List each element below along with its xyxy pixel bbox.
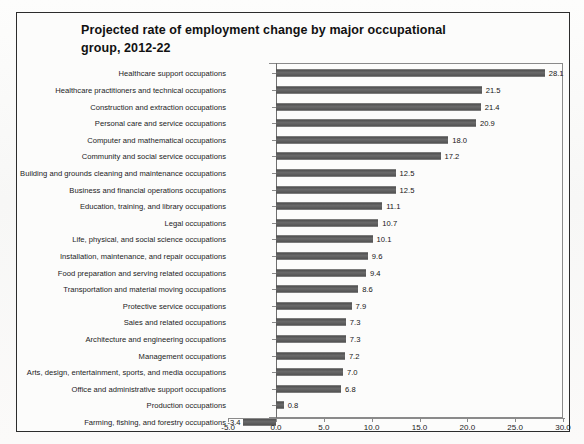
x-axis-tick-label: 20.0 xyxy=(460,423,476,432)
bar-value-label: 18.0 xyxy=(452,135,467,144)
bar-value-label: 7.0 xyxy=(347,368,358,377)
category-label: Protective service occupations xyxy=(123,301,226,310)
bar-row: Healthcare practitioners and technical o… xyxy=(17,82,571,99)
x-axis-tick xyxy=(515,418,516,422)
bar-row: Healthcare support occupations28.1 xyxy=(17,65,571,82)
bar-value-label: 12.5 xyxy=(400,185,415,194)
bar xyxy=(276,336,346,343)
bar-row: Protective service occupations7.9 xyxy=(17,298,571,315)
bar-row: Construction and extraction occupations2… xyxy=(17,98,571,115)
bar-row: Sales and related occupations7.3 xyxy=(17,314,571,331)
bar-value-label: 7.9 xyxy=(356,301,367,310)
x-axis-tick xyxy=(276,418,277,422)
chart-title: Projected rate of employment change by m… xyxy=(81,21,501,57)
bar-value-label: 12.5 xyxy=(400,168,415,177)
chart-title-line-2: group, 2012-22 xyxy=(81,41,171,55)
bar-row: Life, physical, and social science occup… xyxy=(17,231,571,248)
bar xyxy=(276,385,341,392)
category-label: Healthcare support occupations xyxy=(119,69,226,78)
bar-row: Food preparation and serving related occ… xyxy=(17,264,571,281)
bar-value-label: 6.8 xyxy=(345,384,356,393)
bar xyxy=(276,269,366,276)
x-axis-tick-label: 5.0 xyxy=(318,423,329,432)
bar xyxy=(276,136,448,143)
bar-value-label: 7.3 xyxy=(350,335,361,344)
category-label: Management occupations xyxy=(139,351,226,360)
bar-row: Personal care and service occupations20.… xyxy=(17,115,571,132)
category-label: Life, physical, and social science occup… xyxy=(72,235,226,244)
x-axis-tick xyxy=(372,418,373,422)
bar xyxy=(276,169,396,176)
category-label: Business and financial operations occupa… xyxy=(69,185,226,194)
bar xyxy=(276,120,476,127)
bar-value-label: 9.4 xyxy=(370,268,381,277)
bar xyxy=(276,236,373,243)
x-axis-tick-label: 15.0 xyxy=(412,423,428,432)
category-label: Architecture and engineering occupations xyxy=(85,335,226,344)
category-label: Production occupations xyxy=(147,401,226,410)
category-label: Transportation and material moving occup… xyxy=(63,285,226,294)
category-label: Farming, fishing, and forestry occupatio… xyxy=(84,418,226,427)
bar-row: Office and administrative support occupa… xyxy=(17,381,571,398)
bar-row: Management occupations7.2 xyxy=(17,347,571,364)
bar xyxy=(276,70,545,77)
bar-value-label: 17.2 xyxy=(445,152,460,161)
bar-row: Business and financial operations occupa… xyxy=(17,181,571,198)
category-label: Installation, maintenance, and repair oc… xyxy=(60,252,226,261)
x-axis-tick-label: -5.0 xyxy=(221,423,235,432)
bar-value-label: 10.1 xyxy=(377,235,392,244)
bar-value-label: 20.9 xyxy=(480,119,495,128)
x-axis-tick-label: 25.0 xyxy=(507,423,523,432)
bar-rows-container: Healthcare support occupations28.1Health… xyxy=(17,65,571,414)
bar xyxy=(276,203,382,210)
category-label: Healthcare practitioners and technical o… xyxy=(55,85,226,94)
category-label: Community and social service occupations xyxy=(82,152,226,161)
category-label: Computer and mathematical occupations xyxy=(87,135,226,144)
bar-value-label: 21.5 xyxy=(486,85,501,94)
bar-row: Building and grounds cleaning and mainte… xyxy=(17,165,571,182)
bar-row: Architecture and engineering occupations… xyxy=(17,331,571,348)
bar xyxy=(276,352,345,359)
bar-row: Arts, design, entertainment, sports, and… xyxy=(17,364,571,381)
x-axis-tick-label: 30.0 xyxy=(555,423,571,432)
bar-value-label: 8.6 xyxy=(362,285,373,294)
bar xyxy=(276,86,482,93)
x-axis-tick xyxy=(420,418,421,422)
bar-value-label: 9.6 xyxy=(372,252,383,261)
bar-value-label: 11.1 xyxy=(386,202,400,211)
bar xyxy=(276,253,368,260)
category-label: Personal care and service occupations xyxy=(95,119,226,128)
category-label: Arts, design, entertainment, sports, and… xyxy=(27,368,226,377)
bar-value-label: 28.1 xyxy=(549,69,564,78)
bar xyxy=(276,302,352,309)
category-label: Legal occupations xyxy=(164,218,226,227)
bar-value-label: 7.2 xyxy=(349,351,360,360)
bar-value-label: 7.3 xyxy=(350,318,361,327)
bar xyxy=(276,402,284,409)
bar-row: Transportation and material moving occup… xyxy=(17,281,571,298)
bar-value-label: 10.7 xyxy=(382,218,397,227)
bar-row: Computer and mathematical occupations18.… xyxy=(17,131,571,148)
chart-frame: Projected rate of employment change by m… xyxy=(16,12,570,432)
bar-row: Legal occupations10.7 xyxy=(17,214,571,231)
bar-row: Education, training, and library occupat… xyxy=(17,198,571,215)
x-axis-tick xyxy=(228,418,229,422)
bar xyxy=(276,286,358,293)
bar-row: Farming, fishing, and forestry occupatio… xyxy=(17,414,571,431)
x-axis-tick-label: 0.0 xyxy=(270,423,281,432)
bar xyxy=(276,369,343,376)
x-axis-tick xyxy=(467,418,468,422)
bar-row: Production occupations0.8 xyxy=(17,397,571,414)
bar xyxy=(276,186,396,193)
x-axis-tick xyxy=(324,418,325,422)
category-label: Sales and related occupations xyxy=(124,318,226,327)
bar-row: Community and social service occupations… xyxy=(17,148,571,165)
bar-row: Installation, maintenance, and repair oc… xyxy=(17,248,571,265)
chart-title-line-1: Projected rate of employment change by m… xyxy=(81,23,446,37)
bar xyxy=(276,153,441,160)
bar-value-label: 21.4 xyxy=(485,102,500,111)
bar xyxy=(276,319,346,326)
x-axis-tick-label: 10.0 xyxy=(364,423,380,432)
category-label: Building and grounds cleaning and mainte… xyxy=(20,168,226,177)
bar xyxy=(276,219,378,226)
